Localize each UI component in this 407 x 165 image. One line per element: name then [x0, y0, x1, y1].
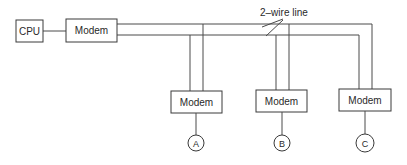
terminal-a-node: A [188, 135, 204, 151]
cpu-label: CPU [19, 26, 40, 37]
main-modem-node: Modem [66, 19, 117, 42]
modem-c-node: Modem [339, 89, 391, 111]
modem-b-node: Modem [256, 90, 307, 112]
modem-a-node: Modem [171, 91, 222, 113]
modem-b-label: Modem [265, 96, 298, 107]
modem-c-label: Modem [348, 95, 381, 106]
terminal-b-node: B [274, 135, 290, 151]
terminal-a-label: A [193, 139, 199, 149]
cpu-node: CPU [16, 20, 43, 42]
terminal-c-node: C [356, 134, 374, 152]
terminal-c-label: C [362, 139, 369, 149]
trunk-wire-lower [117, 35, 359, 89]
network-diagram: 2–wire line CPU Modem Modem A Modem B Mo… [0, 0, 407, 165]
modem-a-label: Modem [180, 97, 213, 108]
trunk-wire-upper [117, 24, 372, 89]
main-modem-label: Modem [75, 25, 108, 36]
wire-label: 2–wire line [260, 7, 308, 18]
terminal-b-label: B [279, 139, 285, 149]
